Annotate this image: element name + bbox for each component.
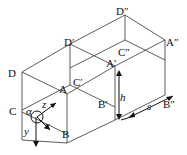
- angle-label-alpha: α: [26, 105, 32, 117]
- dimension-label-h: h: [120, 91, 126, 103]
- isometric-box-diagram: D C A B D′ C′ A′ B′ D″ C″ A″ B″ z x y α …: [0, 0, 187, 155]
- vertex-label-c: C: [9, 105, 16, 117]
- vertex-label-d-prime: D′: [64, 36, 74, 48]
- vertex-label-d: D: [8, 67, 16, 79]
- axis-label-x: x: [44, 119, 50, 131]
- axis-label-y: y: [23, 125, 29, 137]
- vertex-label-b-double-prime: B″: [163, 98, 175, 110]
- vertex-label-c-double-prime: C″: [118, 46, 130, 58]
- vertex-label-b: B: [62, 128, 69, 140]
- labels: D C A B D′ C′ A′ B′ D″ C″ A″ B″ z x y α …: [8, 5, 179, 140]
- vertex-label-a-prime: A′: [106, 57, 116, 69]
- dimension-label-s: s: [147, 100, 151, 112]
- vertex-label-a: A: [59, 83, 67, 95]
- vertex-label-c-prime: C′: [73, 76, 83, 88]
- vertex-label-b-prime: B′: [98, 98, 108, 110]
- vertex-label-a-double-prime: A″: [166, 36, 179, 48]
- vertex-label-d-double-prime: D″: [116, 5, 129, 17]
- axis-label-z: z: [41, 98, 47, 110]
